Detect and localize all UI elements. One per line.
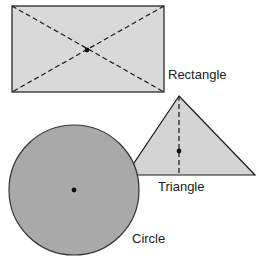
rectangle-shape (12, 6, 164, 92)
circle-shape (9, 125, 139, 255)
triangle-shape (126, 96, 255, 175)
rectangle-centroid (85, 48, 90, 53)
circle-center (72, 188, 77, 193)
rectangle-label: Rectangle (168, 68, 227, 81)
circle-label: Circle (132, 232, 165, 245)
triangle-label: Triangle (158, 180, 204, 193)
shapes-diagram: Rectangle Triangle Circle (0, 0, 259, 259)
triangle-centroid (177, 149, 182, 154)
diagram-canvas (0, 0, 259, 259)
